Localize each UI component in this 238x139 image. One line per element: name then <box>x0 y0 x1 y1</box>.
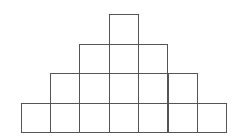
pyramid-square <box>109 73 139 103</box>
pyramid-square <box>50 73 80 103</box>
pyramid-diagram <box>0 0 238 139</box>
pyramid-square <box>197 103 227 133</box>
pyramid-square <box>109 14 139 44</box>
pyramid-square <box>79 44 109 74</box>
pyramid-square <box>168 73 198 103</box>
pyramid-square <box>168 103 198 133</box>
pyramid-square <box>50 103 80 133</box>
pyramid-square <box>138 44 168 74</box>
pyramid-square <box>109 44 139 74</box>
pyramid-square <box>79 73 109 103</box>
pyramid-square <box>138 103 168 133</box>
pyramid-square <box>138 73 168 103</box>
pyramid-square <box>21 103 51 133</box>
pyramid-square <box>109 103 139 133</box>
pyramid-square <box>79 103 109 133</box>
